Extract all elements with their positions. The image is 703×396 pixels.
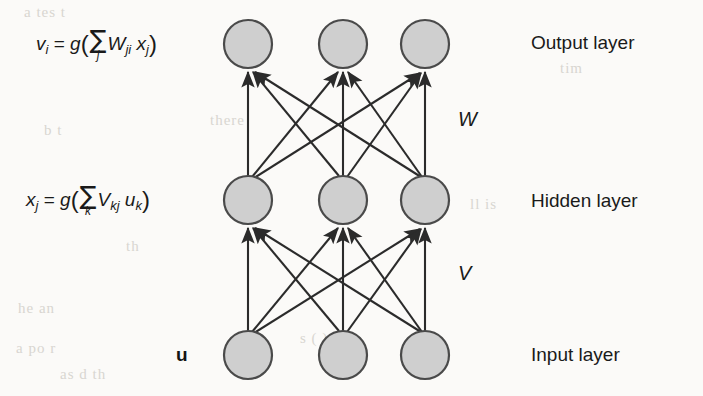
formula-output-variable-subscript: j	[146, 42, 149, 57]
formula-output-equals: =	[54, 33, 65, 54]
node-input-2	[319, 331, 367, 379]
formula-hidden-equals: =	[44, 189, 55, 210]
formula-output-summation: ∑j	[90, 30, 107, 61]
formula-output-activation: vi = g(∑jWji xj)	[36, 30, 157, 61]
formula-output-weight-subscript: ji	[125, 42, 131, 57]
formula-output-weight: W	[108, 33, 126, 54]
edges-hidden-to-output	[248, 72, 425, 178]
weight-label-w: W	[458, 108, 477, 131]
input-vector-label: u	[176, 344, 188, 366]
formula-hidden-weight: V	[98, 189, 111, 210]
node-output-3	[401, 20, 449, 68]
formula-hidden-activation: xj = g(∑kVkj uk)	[26, 186, 150, 217]
layer-label-output: Output layer	[531, 32, 635, 54]
formula-output-lhs-subscript: i	[46, 42, 49, 57]
node-input-1	[224, 331, 272, 379]
formula-hidden-open-paren: (	[71, 186, 79, 213]
formula-hidden-variable: u	[125, 189, 136, 210]
node-hidden-1	[224, 176, 272, 224]
layer-label-hidden: Hidden layer	[531, 190, 638, 212]
node-input-3	[401, 331, 449, 379]
formula-hidden-summation: ∑k	[80, 186, 97, 217]
edges-input-to-hidden	[248, 228, 425, 333]
formula-output-function: g	[70, 33, 81, 54]
node-output-1	[224, 20, 272, 68]
node-hidden-2	[319, 176, 367, 224]
layer-label-input: Input layer	[531, 344, 620, 366]
node-output-2	[319, 20, 367, 68]
formula-hidden-lhs: x	[26, 189, 36, 210]
formula-hidden-function: g	[60, 189, 71, 210]
neural-network-figure: a tes t there b t th he an ll is a po r …	[0, 0, 703, 396]
formula-output-variable: x	[137, 33, 147, 54]
weight-label-v: V	[458, 262, 471, 285]
formula-hidden-lhs-subscript: j	[36, 198, 39, 213]
formula-hidden-weight-subscript: kj	[110, 198, 119, 213]
formula-output-open-paren: (	[81, 30, 89, 57]
formula-hidden-close-paren: )	[142, 186, 150, 213]
formula-hidden-variable-subscript: k	[135, 198, 142, 213]
formula-output-close-paren: )	[149, 30, 157, 57]
node-hidden-3	[401, 176, 449, 224]
formula-output-lhs: v	[36, 33, 46, 54]
